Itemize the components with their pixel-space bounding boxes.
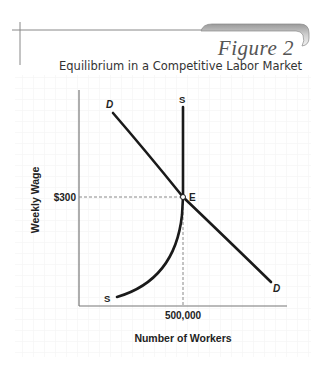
y-axis-title: Weekly Wage: [29, 167, 41, 234]
figure-subtitle: Equilibrium in a Competitive Labor Marke…: [59, 59, 302, 73]
equilibrium-label: E: [189, 192, 196, 203]
supply-label-top: S: [179, 94, 185, 105]
y-tick-label: $300: [54, 192, 77, 203]
equilibrium-point: [181, 195, 186, 200]
demand-label-bottom: D: [273, 283, 280, 294]
x-axis-title: Number of Workers: [134, 332, 231, 344]
background-grid: [15, 75, 311, 357]
demand-label-top: D: [106, 99, 113, 110]
figure-number: Figure 2: [218, 36, 294, 61]
supply-label-bottom: S: [104, 293, 110, 304]
x-tick-label: 500,000: [165, 310, 202, 321]
